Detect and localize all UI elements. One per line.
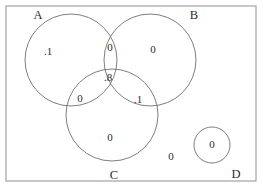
set-label-c: C [110, 168, 118, 182]
set-circle-c [66, 69, 158, 161]
set-label-b: B [190, 8, 198, 22]
set-circle-b [104, 14, 196, 106]
region-value-a-b-and-c: .8 [104, 71, 113, 83]
venn-diagram-container: A B C D .1 0 0 .8 0 .1 0 0 0 [0, 0, 263, 189]
region-value-d-only: 0 [209, 138, 215, 150]
region-value-b-and-c: .1 [134, 93, 142, 105]
universe-frame [6, 6, 256, 181]
set-label-d: D [231, 167, 240, 181]
set-label-a: A [33, 8, 42, 22]
set-circle-a [25, 14, 117, 106]
region-value-a-only: .1 [44, 45, 52, 57]
region-value-c-only: 0 [107, 131, 113, 143]
region-value-outside: 0 [168, 150, 174, 162]
region-value-b-only: 0 [150, 43, 156, 55]
region-value-a-and-c: 0 [77, 92, 83, 104]
region-value-a-and-b: 0 [107, 41, 113, 53]
venn-diagram-canvas: A B C D .1 0 0 .8 0 .1 0 0 0 [0, 0, 263, 189]
